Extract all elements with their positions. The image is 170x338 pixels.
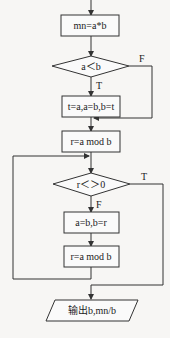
process-swap: t=a,a=b,b=t <box>62 96 120 117</box>
cond1-true-label: T <box>96 80 102 91</box>
process-shift: a=b,b=r <box>64 212 119 233</box>
decision-a-less-b: a＜b <box>52 56 129 77</box>
process-mod1: r=a mod b <box>62 131 120 152</box>
output-node-label: 输出b,mn/b <box>68 304 116 316</box>
output-node: 输出b,mn/b <box>46 300 138 321</box>
process-mod1-label: r=a mod b <box>70 136 111 147</box>
flowchart: mn=a*b a＜b F T t=a,a=b,b=t r=a mod b r＜＞… <box>0 0 170 338</box>
process-shift-label: a=b,b=r <box>75 217 107 228</box>
process-mod2-label: r=a mod b <box>70 251 111 262</box>
decision-r-not-zero: r＜＞0 <box>53 173 130 196</box>
cond1-false-label: F <box>139 53 145 64</box>
decision-r-not-zero-label: r＜＞0 <box>77 179 105 190</box>
process-mn-assign: mn=a*b <box>61 15 119 36</box>
process-mod2: r=a mod b <box>64 246 119 267</box>
decision-a-less-b-label: a＜b <box>81 61 100 72</box>
process-swap-label: t=a,a=b,b=t <box>68 101 115 112</box>
cond2-false-label: F <box>96 199 102 210</box>
process-mn-assign-label: mn=a*b <box>74 20 107 31</box>
cond2-true-label: T <box>141 171 147 182</box>
cond2-true-path <box>91 184 163 299</box>
